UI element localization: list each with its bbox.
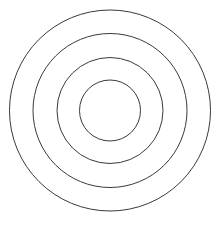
figure-canvas xyxy=(0,0,221,226)
concentric-circles-figure xyxy=(0,0,221,226)
